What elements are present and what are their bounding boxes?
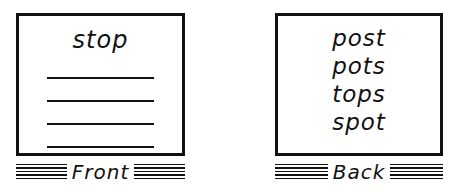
anagram-list: post pots tops spot [278,24,440,136]
anagram-word: tops [278,80,440,108]
answer-line-1 [47,77,154,79]
front-label: Front [67,160,134,184]
front-card: stop [16,13,185,156]
answer-line-4 [47,146,154,148]
hatch-decoration-left [16,164,67,181]
back-card: post pots tops spot [275,13,443,156]
anagram-word: post [278,24,440,52]
front-word: stop [19,26,182,54]
back-label: Back [328,160,391,184]
anagram-word: pots [278,52,440,80]
hatch-decoration-right [134,164,185,181]
answer-line-3 [47,123,154,125]
front-label-bar: Front [16,160,185,184]
back-label-bar: Back [275,160,443,184]
answer-line-2 [47,100,154,102]
anagram-word: spot [278,108,440,136]
hatch-decoration-left [275,164,328,181]
hatch-decoration-right [390,164,443,181]
